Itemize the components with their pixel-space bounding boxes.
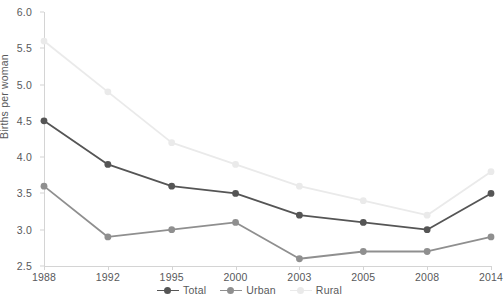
series-rural (41, 38, 495, 219)
legend-swatch-icon (157, 286, 179, 295)
data-point (232, 190, 239, 197)
data-point (41, 38, 48, 45)
data-point (41, 117, 48, 124)
data-point (488, 190, 495, 197)
series-line (44, 41, 491, 215)
legend-item-rural[interactable]: Rural (290, 284, 342, 296)
data-point (232, 219, 239, 226)
data-point (424, 248, 431, 255)
chart-legend: TotalUrbanRural (0, 284, 499, 296)
legend-item-total[interactable]: Total (157, 284, 206, 296)
data-point (360, 197, 367, 204)
legend-label: Total (183, 284, 206, 296)
data-point (104, 88, 111, 95)
data-point (424, 226, 431, 233)
legend-label: Urban (246, 284, 276, 296)
data-point (296, 183, 303, 190)
data-point (168, 226, 175, 233)
data-point (360, 219, 367, 226)
legend-swatch-icon (220, 286, 242, 295)
data-point (488, 168, 495, 175)
data-point (296, 255, 303, 262)
data-point (232, 161, 239, 168)
series-line (44, 186, 491, 259)
data-point (104, 234, 111, 241)
data-point (488, 234, 495, 241)
data-point (168, 183, 175, 190)
legend-item-urban[interactable]: Urban (220, 284, 276, 296)
data-point (168, 139, 175, 146)
legend-swatch-icon (290, 286, 312, 295)
data-point (360, 248, 367, 255)
legend-label: Rural (316, 284, 342, 296)
series-urban (41, 183, 495, 262)
data-point (104, 161, 111, 168)
data-point (296, 212, 303, 219)
data-point (41, 183, 48, 190)
data-point (424, 212, 431, 219)
